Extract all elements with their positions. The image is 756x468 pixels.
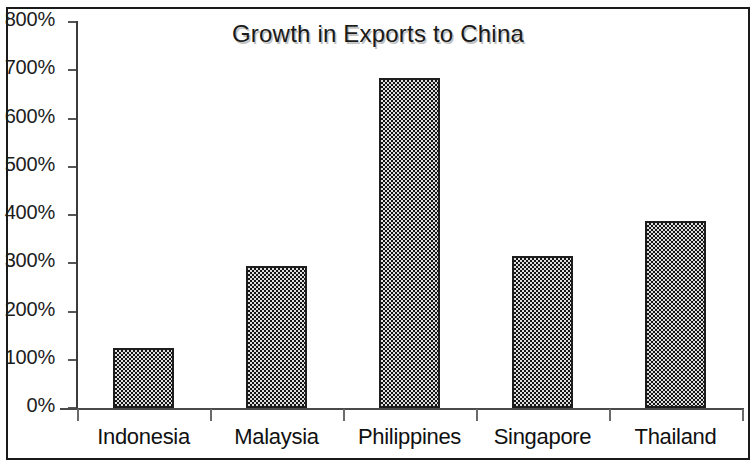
y-axis-tick-label: 500%	[5, 153, 55, 176]
y-axis-tick-label: 100%	[5, 346, 55, 369]
x-axis-tick-mark	[210, 409, 212, 421]
chart-screenshot: Growth in Exports to China 0%100%200%300…	[0, 0, 756, 468]
y-axis-tick-label: 400%	[5, 201, 55, 224]
x-axis-tick-mark	[742, 409, 744, 421]
x-axis-label-philippines: Philippines	[343, 424, 476, 450]
x-axis-label-indonesia: Indonesia	[77, 424, 210, 450]
y-axis: 0%100%200%300%400%500%600%700%800%	[0, 0, 77, 468]
x-axis-tick-mark	[77, 409, 79, 421]
bar-singapore	[512, 256, 573, 408]
bar-thailand	[645, 221, 706, 408]
y-axis-tick-label: 700%	[5, 56, 55, 79]
bar-indonesia	[113, 348, 174, 408]
x-axis-label-thailand: Thailand	[609, 424, 742, 450]
plot-area	[77, 22, 742, 408]
x-axis-label-singapore: Singapore	[476, 424, 609, 450]
y-axis-tick-label: 300%	[5, 249, 55, 272]
x-axis-tick-mark	[609, 409, 611, 421]
y-axis-tick-label: 0%	[26, 394, 55, 417]
y-axis-tick-label: 200%	[5, 298, 55, 321]
x-axis-line	[60, 408, 744, 410]
bar-malaysia	[246, 266, 307, 408]
x-axis-tick-mark	[343, 409, 345, 421]
y-axis-tick-label: 600%	[5, 105, 55, 128]
bar-philippines	[379, 78, 440, 408]
x-axis-tick-mark	[476, 409, 478, 421]
y-axis-tick-label: 800%	[5, 8, 55, 31]
x-axis-label-malaysia: Malaysia	[210, 424, 343, 450]
